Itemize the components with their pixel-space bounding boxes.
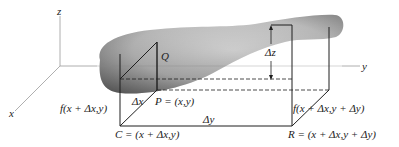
delta-y-label: Δy [203, 114, 214, 125]
delta-x-label: Δx [132, 96, 143, 107]
diagram-graphics [0, 0, 399, 147]
f-left-label: f(x + Δx,y) [60, 103, 107, 114]
x-axis [15, 66, 60, 111]
f-right-label: f(x + Δx,y + Δy) [293, 103, 364, 114]
point-c-label: C = (x + Δx,y) [115, 129, 179, 140]
delta-z-label: Δz [265, 47, 276, 58]
x-axis-label: x [9, 108, 14, 119]
surface-increment-diagram: z x y Q P = (x,y) C = (x + Δx,y) R = (x … [0, 0, 399, 147]
point-r-label: R = (x + Δx,y + Δy) [288, 129, 376, 140]
point-p-label: P = (x,y) [155, 96, 194, 107]
point-q-label: Q [161, 51, 169, 62]
z-axis-label: z [57, 6, 61, 17]
y-axis-label: y [362, 61, 367, 72]
